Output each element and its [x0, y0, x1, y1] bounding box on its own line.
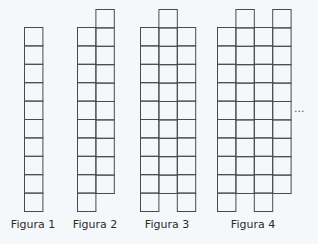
- grid-square: [25, 83, 43, 101]
- grid-square: [177, 83, 195, 101]
- grid-square: [177, 138, 195, 156]
- grid-square: [25, 64, 43, 82]
- grid-square: [218, 28, 236, 46]
- grid-square: [236, 175, 254, 193]
- figure-1: [25, 28, 43, 212]
- grid-square: [218, 156, 236, 174]
- grid-square: [25, 120, 43, 138]
- grid-square: [218, 83, 236, 101]
- grid-square: [96, 28, 114, 46]
- grid-square: [159, 83, 177, 101]
- grid-square: [254, 101, 272, 119]
- grid-square: [78, 64, 96, 82]
- grid-square: [273, 65, 291, 83]
- grid-square: [96, 10, 114, 28]
- grid-square: [254, 46, 272, 64]
- grid-square: [273, 175, 291, 193]
- grid-square: [78, 175, 96, 193]
- grid-square: [236, 102, 254, 120]
- grid-square: [254, 193, 272, 211]
- grid-square: [236, 157, 254, 175]
- grid-square: [96, 102, 114, 120]
- grid-square: [177, 101, 195, 119]
- grid-square: [273, 83, 291, 101]
- grid-square: [177, 120, 195, 138]
- grid-square: [236, 10, 254, 28]
- grid-square: [159, 65, 177, 83]
- grid-square: [159, 102, 177, 120]
- grid-square: [25, 28, 43, 46]
- grid-square: [218, 193, 236, 211]
- grid-square: [78, 101, 96, 119]
- grid-square: [273, 102, 291, 120]
- grid-square: [218, 64, 236, 82]
- grid-square: [159, 138, 177, 156]
- grid-square: [141, 175, 159, 193]
- grid-square: [254, 28, 272, 46]
- grid-square: [96, 138, 114, 156]
- grid-square: [141, 193, 159, 211]
- figure-4: [218, 10, 292, 212]
- grid-square: [96, 83, 114, 101]
- grid-square: [254, 138, 272, 156]
- grid-square: [78, 120, 96, 138]
- figure-label-2: Figura 2: [73, 218, 117, 231]
- figure-sequence-diagram: [0, 0, 318, 244]
- grid-square: [25, 175, 43, 193]
- grid-square: [96, 175, 114, 193]
- grid-square: [177, 46, 195, 64]
- grid-square: [273, 10, 291, 28]
- grid-square: [236, 28, 254, 46]
- grid-square: [273, 157, 291, 175]
- grid-square: [141, 83, 159, 101]
- grid-square: [218, 46, 236, 64]
- grid-square: [78, 193, 96, 211]
- grid-square: [78, 83, 96, 101]
- grid-square: [218, 175, 236, 193]
- figure-label-4: Figura 4: [231, 218, 275, 231]
- grid-square: [236, 46, 254, 64]
- figure-label-3: Figura 3: [145, 218, 189, 231]
- grid-square: [177, 156, 195, 174]
- grid-square: [25, 101, 43, 119]
- grid-square: [141, 156, 159, 174]
- grid-square: [141, 64, 159, 82]
- grid-square: [236, 120, 254, 138]
- grid-square: [177, 193, 195, 211]
- grid-square: [273, 138, 291, 156]
- grid-square: [141, 120, 159, 138]
- grid-square: [177, 64, 195, 82]
- grid-square: [25, 138, 43, 156]
- grid-square: [96, 46, 114, 64]
- grid-square: [25, 193, 43, 211]
- grid-square: [254, 156, 272, 174]
- grid-square: [218, 120, 236, 138]
- grid-square: [96, 120, 114, 138]
- grid-square: [159, 175, 177, 193]
- grid-square: [159, 157, 177, 175]
- grid-square: [159, 46, 177, 64]
- grid-square: [141, 46, 159, 64]
- grid-square: [254, 120, 272, 138]
- grid-square: [159, 120, 177, 138]
- grid-square: [78, 156, 96, 174]
- grid-square: [78, 28, 96, 46]
- grid-square: [273, 28, 291, 46]
- grid-square: [141, 28, 159, 46]
- grid-square: [236, 65, 254, 83]
- grid-square: [141, 101, 159, 119]
- grid-square: [96, 65, 114, 83]
- grid-square: [177, 175, 195, 193]
- grid-square: [218, 101, 236, 119]
- grid-square: [159, 10, 177, 28]
- figure-3: [141, 10, 196, 212]
- grid-square: [254, 175, 272, 193]
- grid-square: [218, 138, 236, 156]
- grid-square: [96, 157, 114, 175]
- figure-label-1: Figura 1: [11, 218, 55, 231]
- grid-square: [159, 28, 177, 46]
- continuation-ellipsis: ...: [294, 102, 305, 115]
- grid-square: [78, 46, 96, 64]
- grid-square: [25, 156, 43, 174]
- grid-square: [25, 46, 43, 64]
